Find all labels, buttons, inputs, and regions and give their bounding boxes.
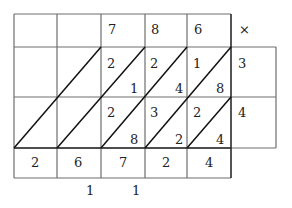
- cell-ones: 1: [130, 81, 138, 96]
- cell-ones: 4: [175, 81, 183, 96]
- result-digit: 2: [162, 155, 170, 170]
- result-digit: 7: [119, 155, 127, 170]
- cell-tens: 2: [107, 105, 115, 120]
- cell-tens: 3: [150, 105, 158, 120]
- multiply-symbol: ×: [239, 22, 250, 37]
- multiplicand-digit: 7: [108, 22, 116, 37]
- multiplier-digit: 3: [238, 56, 246, 71]
- cell-tens: 2: [193, 105, 201, 120]
- result-digit: 2: [31, 155, 39, 170]
- cell-tens: 2: [150, 56, 158, 71]
- carry-digit: 1: [86, 183, 94, 198]
- lattice-diagram: 7 8 6 × 3 4 2 1 2 4 1 8 2 8 3 2 2 4 2 6 …: [0, 0, 292, 208]
- multiplicand-digit: 8: [151, 22, 159, 37]
- cell-ones: 8: [130, 132, 138, 147]
- cell-ones: 4: [216, 132, 224, 147]
- cell-tens: 2: [107, 56, 115, 71]
- multiplier-digit: 4: [238, 105, 246, 120]
- cell-ones: 2: [175, 132, 183, 147]
- result-digit: 6: [74, 155, 82, 170]
- result-digit: 4: [205, 155, 213, 170]
- cell-tens: 1: [193, 56, 201, 71]
- multiplicand-digit: 6: [194, 22, 202, 37]
- carry-digit: 1: [132, 183, 140, 198]
- cell-ones: 8: [216, 81, 224, 96]
